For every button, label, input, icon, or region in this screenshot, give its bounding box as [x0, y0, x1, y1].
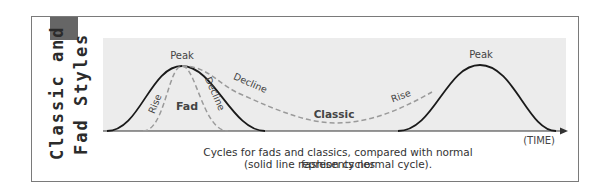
- caption-line-2: (solid line represents normal cycle).: [200, 158, 476, 170]
- peak-label-2: Peak: [469, 49, 493, 60]
- fad-label: Fad: [176, 100, 198, 113]
- classic-label: Classic: [314, 108, 355, 120]
- time-axis-label: (TIME): [523, 135, 555, 146]
- peak-label-1: Peak: [170, 50, 194, 61]
